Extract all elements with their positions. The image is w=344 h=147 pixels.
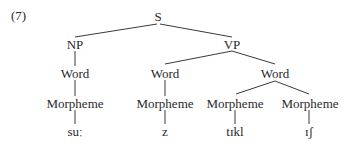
node-s: S bbox=[154, 10, 161, 23]
edge-s-np bbox=[75, 24, 157, 37]
node-np: NP bbox=[67, 38, 84, 51]
node-morpheme-2: Morpheme bbox=[136, 97, 193, 110]
node-word-3: Word bbox=[261, 67, 290, 80]
node-word-1: Word bbox=[61, 67, 90, 80]
example-number: (7) bbox=[11, 9, 26, 22]
syntax-tree: (7) S NP VP Word Word Word Morpheme Morp… bbox=[0, 0, 344, 147]
leaf-z: z bbox=[162, 125, 168, 138]
edge-word3-morpheme4 bbox=[275, 81, 309, 94]
node-word-2: Word bbox=[151, 67, 180, 80]
edge-vp-word2 bbox=[165, 51, 232, 64]
edge-word3-morpheme3 bbox=[236, 81, 275, 94]
leaf-ish: ɪʃ bbox=[305, 125, 313, 138]
node-vp: VP bbox=[224, 38, 241, 51]
node-morpheme-1: Morpheme bbox=[46, 97, 103, 110]
node-morpheme-4: Morpheme bbox=[281, 97, 338, 110]
edge-s-vp bbox=[160, 24, 232, 37]
edge-vp-word3 bbox=[232, 51, 275, 64]
leaf-tikl: tɪkl bbox=[226, 125, 243, 138]
leaf-su: suː bbox=[67, 125, 82, 138]
node-morpheme-3: Morpheme bbox=[206, 97, 263, 110]
